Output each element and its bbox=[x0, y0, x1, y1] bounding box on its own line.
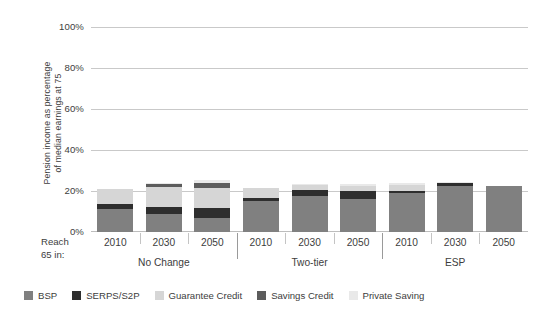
y-tick-label-100: 100% bbox=[34, 21, 84, 32]
gridline-60 bbox=[91, 109, 528, 110]
bar-esp-2010 bbox=[389, 183, 425, 232]
legend-label: SERPS/S2P bbox=[86, 290, 139, 301]
x-tick-mark-1 bbox=[140, 233, 141, 244]
legend-item-serps-s2p[interactable]: SERPS/S2P bbox=[72, 290, 139, 301]
legend-swatch-icon bbox=[257, 291, 266, 300]
legend-swatch-icon bbox=[72, 291, 81, 300]
legend-item-private-saving[interactable]: Private Saving bbox=[349, 290, 425, 301]
bar-no-change-2050 bbox=[194, 180, 230, 232]
legend-item-savings-credit[interactable]: Savings Credit bbox=[257, 290, 333, 301]
bar-two-tier-2050 bbox=[340, 184, 376, 232]
gridline-80 bbox=[91, 68, 528, 69]
bar-two-tier-2010 bbox=[243, 188, 279, 232]
legend-swatch-icon bbox=[24, 291, 33, 300]
bar-segment-guarantee-credit bbox=[146, 187, 182, 206]
bar-segment-serps-s2p bbox=[340, 191, 376, 199]
x-axis-title-line-2: 65 in: bbox=[41, 249, 91, 262]
legend-item-bsp[interactable]: BSP bbox=[24, 290, 57, 301]
bar-segment-guarantee-credit bbox=[97, 189, 133, 204]
bar-esp-2030 bbox=[437, 182, 473, 232]
bar-two-tier-2030 bbox=[292, 184, 328, 232]
bar-segment-bsp bbox=[340, 199, 376, 232]
plot-area bbox=[91, 27, 528, 232]
legend-label: Guarantee Credit bbox=[169, 290, 243, 301]
group-label-esp: ESP bbox=[380, 257, 530, 268]
bar-segment-bsp bbox=[146, 214, 182, 232]
x-tick-mark-4 bbox=[285, 233, 286, 244]
x-tick-mark-8 bbox=[479, 233, 480, 244]
bar-segment-bsp bbox=[97, 209, 133, 232]
group-separator-1 bbox=[237, 233, 238, 259]
legend-swatch-icon bbox=[155, 291, 164, 300]
x-axis-title-line-1: Reach bbox=[41, 236, 91, 249]
legend-label: Savings Credit bbox=[271, 290, 333, 301]
y-tick-label-80: 80% bbox=[34, 62, 84, 73]
x-tick-label-8: 2050 bbox=[474, 237, 534, 248]
group-label-two-tier: Two-tier bbox=[235, 257, 385, 268]
y-axis-title-line-1: Pension income as percentage bbox=[42, 18, 53, 228]
gridline-100 bbox=[91, 27, 528, 28]
bar-segment-bsp bbox=[243, 201, 279, 232]
x-tick-mark-5 bbox=[334, 233, 335, 244]
x-axis: 201020302050201020302050201020302050 No … bbox=[91, 233, 528, 279]
bar-segment-bsp bbox=[389, 193, 425, 232]
bar-esp-2050 bbox=[486, 186, 522, 232]
bar-segment-guarantee-credit bbox=[194, 188, 230, 207]
legend-label: Private Saving bbox=[363, 290, 425, 301]
x-axis-title: Reach 65 in: bbox=[41, 236, 91, 261]
y-tick-label-40: 40% bbox=[34, 144, 84, 155]
legend-label: BSP bbox=[38, 290, 57, 301]
bar-segment-serps-s2p bbox=[194, 208, 230, 218]
y-tick-label-60: 60% bbox=[34, 103, 84, 114]
bar-no-change-2010 bbox=[97, 189, 133, 232]
pension-income-stacked-bar-chart: Pension income as percentage of median e… bbox=[0, 0, 555, 319]
gridline-40 bbox=[91, 150, 528, 151]
bar-segment-guarantee-credit bbox=[243, 188, 279, 198]
bar-segment-bsp bbox=[292, 196, 328, 232]
bar-segment-serps-s2p bbox=[146, 207, 182, 214]
legend-swatch-icon bbox=[349, 291, 358, 300]
y-axis-title-line-2: of median earnings at 75 bbox=[53, 18, 64, 228]
y-axis-title: Pension income as percentage of median e… bbox=[42, 18, 62, 228]
x-tick-mark-7 bbox=[431, 233, 432, 244]
group-separator-2 bbox=[382, 233, 383, 259]
legend-item-guarantee-credit[interactable]: Guarantee Credit bbox=[155, 290, 243, 301]
group-label-no-change: No Change bbox=[89, 257, 239, 268]
bar-no-change-2030 bbox=[146, 183, 182, 232]
y-tick-label-20: 20% bbox=[34, 185, 84, 196]
bar-segment-bsp bbox=[437, 186, 473, 232]
chart-legend: BSPSERPS/S2PGuarantee CreditSavings Cred… bbox=[24, 288, 439, 302]
bar-segment-bsp bbox=[194, 218, 230, 232]
bar-segment-bsp bbox=[486, 186, 522, 232]
x-tick-mark-2 bbox=[188, 233, 189, 244]
